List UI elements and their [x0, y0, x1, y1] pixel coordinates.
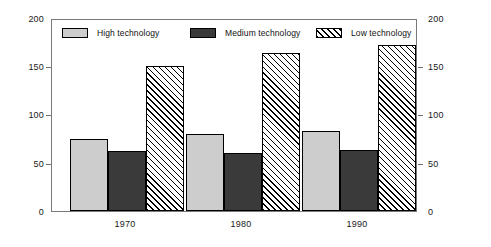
y-axis-right-tick-50: 50: [428, 160, 462, 169]
y-axis-left-tick-150: 150: [10, 63, 44, 72]
x-axis-label-1970: 1970: [95, 220, 155, 229]
x-axis-label-1980: 1980: [211, 220, 271, 229]
bar-1970-high-technology: [70, 139, 108, 211]
bar-1970-low-technology: [146, 66, 184, 211]
bars-layer: [52, 20, 416, 211]
bar-1980-low-technology: [262, 53, 300, 212]
y-axis-right-tick-0: 0: [428, 208, 462, 217]
y-axis-left-tickmark-50: [46, 164, 51, 165]
y-axis-right-tickmark-100: [418, 115, 423, 116]
y-axis-left-tickmark-150: [46, 67, 51, 68]
bar-1980-high-technology: [186, 134, 224, 211]
y-axis-left-tickmark-100: [46, 115, 51, 116]
y-axis-left-tick-100: 100: [10, 111, 44, 120]
x-axis-label-1990: 1990: [327, 220, 387, 229]
y-axis-right-tick-150: 150: [428, 63, 462, 72]
y-axis-right-tickmark-50: [418, 164, 423, 165]
bar-1990-medium-technology: [340, 150, 378, 211]
bar-1990-high-technology: [302, 131, 340, 211]
y-axis-left-tick-0: 0: [10, 208, 44, 217]
y-axis-right-tick-200: 200: [428, 15, 462, 24]
y-axis-right-tickmark-150: [418, 67, 423, 68]
y-axis-left-tick-50: 50: [10, 160, 44, 169]
bar-chart: 200 150 100 50 0 200 150 100 50 0 High t…: [0, 0, 491, 247]
bar-1970-medium-technology: [108, 151, 146, 211]
y-axis-left-tick-200: 200: [10, 15, 44, 24]
y-axis-right-tick-100: 100: [428, 111, 462, 120]
bar-1980-medium-technology: [224, 153, 262, 211]
bar-1990-low-technology: [378, 45, 416, 211]
